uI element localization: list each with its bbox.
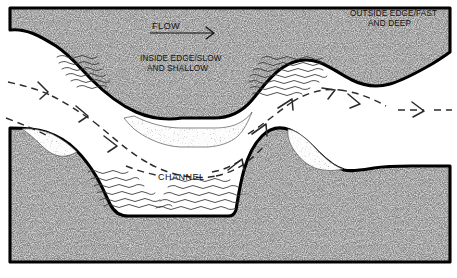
inside-edge-label-line1: INSIDE EDGE/SLOW — [140, 54, 222, 63]
outside-edge-label-line2: AND DEEP — [368, 19, 411, 28]
river-channel-diagram: FLOW INSIDE EDGE/SLOW AND SHALLOW OUTSID… — [0, 0, 457, 278]
outside-edge-label-line1: OUTSIDE EDGE/FAST — [350, 9, 437, 18]
channel-label: CHANNEL — [158, 172, 205, 182]
inside-edge-label-line2: AND SHALLOW — [147, 64, 208, 73]
flow-label: FLOW — [152, 21, 180, 31]
